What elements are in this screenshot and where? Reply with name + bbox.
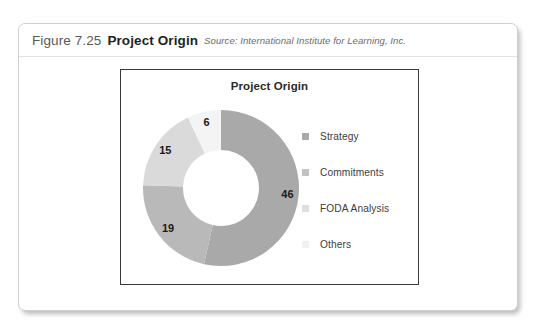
legend-label-foda-analysis: FODA Analysis xyxy=(320,203,389,214)
legend-swatch-strategy xyxy=(302,133,309,140)
legend-item-foda-analysis[interactable]: FODA Analysis xyxy=(302,190,412,226)
figure-caption-bar: Figure 7.25 Project Origin Source: Inter… xyxy=(19,24,517,57)
donut-slice-commitments[interactable] xyxy=(143,185,213,264)
donut-value-label-strategy: 46 xyxy=(281,188,293,200)
chart-legend: Strategy Commitments FODA Analysis Other… xyxy=(302,118,412,262)
legend-swatch-commitments xyxy=(302,169,309,176)
donut-value-label-foda-analysis: 15 xyxy=(159,144,171,156)
legend-label-commitments: Commitments xyxy=(320,167,384,178)
chart-title: Project Origin xyxy=(121,80,418,92)
figure-panel: Figure 7.25 Project Origin Source: Inter… xyxy=(18,23,518,311)
legend-swatch-foda-analysis xyxy=(302,205,309,212)
legend-label-others: Others xyxy=(320,239,351,250)
chart-container: Project Origin 4619156 Strategy Commitme… xyxy=(120,69,419,285)
figure-title-label: Project Origin xyxy=(107,33,198,48)
legend-item-strategy[interactable]: Strategy xyxy=(302,118,412,154)
legend-swatch-others xyxy=(302,241,309,248)
legend-item-others[interactable]: Others xyxy=(302,226,412,262)
donut-value-label-commitments: 19 xyxy=(162,222,174,234)
figure-source-label: Source: International Institute for Lear… xyxy=(204,35,406,46)
donut-chart-svg: 4619156 xyxy=(133,98,308,278)
legend-item-commitments[interactable]: Commitments xyxy=(302,154,412,190)
figure-number-label: Figure 7.25 xyxy=(32,33,101,48)
donut-chart: 4619156 xyxy=(133,98,308,278)
legend-label-strategy: Strategy xyxy=(320,131,359,142)
donut-slice-group xyxy=(143,110,299,266)
donut-value-label-others: 6 xyxy=(203,116,209,128)
